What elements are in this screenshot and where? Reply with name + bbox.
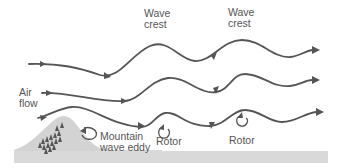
arrowhead-icon <box>40 61 46 67</box>
arrowhead-icon <box>312 46 320 54</box>
arrowhead-icon <box>312 76 320 84</box>
mountain-wave-eddy-label: Mountain wave eddy <box>100 131 150 153</box>
flow-line-bottom <box>38 107 316 127</box>
air-flow-label: Air flow <box>19 87 38 109</box>
flow-line-top <box>29 40 312 76</box>
flow-line-middle <box>42 74 312 101</box>
arrowhead-icon <box>316 108 324 116</box>
wave-crest-label: Wave crest <box>228 7 254 29</box>
rotor-label: Rotor <box>156 136 182 147</box>
rotor-icon <box>237 112 248 126</box>
wave-crest-label: Wave crest <box>144 8 170 30</box>
ground-right <box>160 151 328 163</box>
arrowhead-icon <box>121 98 128 104</box>
rotor-label: Rotor <box>229 135 255 146</box>
arrowhead-icon <box>138 122 145 130</box>
arrowhead-icon <box>46 90 53 96</box>
